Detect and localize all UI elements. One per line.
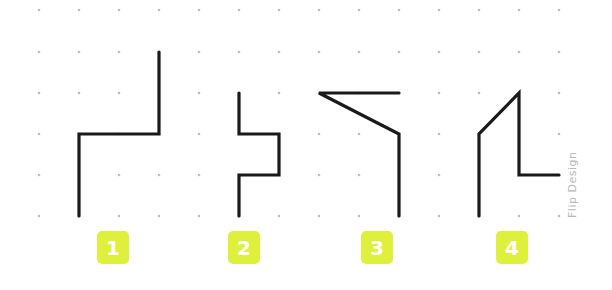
grid-dot xyxy=(558,9,561,12)
grid-dot xyxy=(318,51,321,54)
grid-dot xyxy=(438,92,441,95)
option-badge-4: 4 xyxy=(496,231,528,264)
shape-1 xyxy=(79,52,159,216)
grid-dot xyxy=(198,174,201,177)
grid-dot xyxy=(158,215,161,218)
grid-dot xyxy=(558,133,561,136)
grid-dot xyxy=(38,92,41,95)
grid-dot xyxy=(518,215,521,218)
grid-dot xyxy=(358,9,361,12)
grid-dot xyxy=(38,51,41,54)
option-badge-3: 3 xyxy=(361,231,393,264)
grid-dot xyxy=(318,133,321,136)
shape-3 xyxy=(319,93,399,216)
option-badge-1: 1 xyxy=(97,231,129,264)
grid-dot xyxy=(118,9,121,12)
grid-dot xyxy=(238,51,241,54)
grid-dot xyxy=(438,215,441,218)
grid-dot xyxy=(358,215,361,218)
grid-dot xyxy=(278,9,281,12)
grid-dot xyxy=(478,51,481,54)
grid-dot xyxy=(78,92,81,95)
grid-dot xyxy=(38,215,41,218)
grid-dot xyxy=(38,133,41,136)
grid-dot xyxy=(558,92,561,95)
grid-dot xyxy=(558,51,561,54)
grid-dot xyxy=(438,133,441,136)
grid-dot xyxy=(558,215,561,218)
grid-dot xyxy=(358,51,361,54)
option-badge-2: 2 xyxy=(228,231,260,264)
grid-dot xyxy=(118,92,121,95)
grid-dot xyxy=(438,51,441,54)
grid-dot xyxy=(198,51,201,54)
grid-dot xyxy=(358,174,361,177)
grid-dot xyxy=(158,174,161,177)
grid-dot xyxy=(318,9,321,12)
grid-dot xyxy=(318,174,321,177)
grid-dot xyxy=(78,51,81,54)
grid-dot xyxy=(238,9,241,12)
grid-dot xyxy=(118,51,121,54)
grid-dot xyxy=(478,92,481,95)
grid-dot xyxy=(398,9,401,12)
grid-dot xyxy=(198,92,201,95)
grid-dot xyxy=(478,9,481,12)
grid-dot xyxy=(38,174,41,177)
grid-dots xyxy=(38,9,561,218)
grid-dot xyxy=(438,174,441,177)
shape-2 xyxy=(239,93,279,216)
grid-dot xyxy=(78,9,81,12)
grid-dot xyxy=(318,215,321,218)
grid-dot xyxy=(198,133,201,136)
grid-dot xyxy=(358,133,361,136)
credit-label: Flip Design xyxy=(566,152,579,218)
grid-dot xyxy=(118,215,121,218)
grid-dot xyxy=(278,92,281,95)
grid-dot xyxy=(518,51,521,54)
grid-dot xyxy=(398,51,401,54)
grid-dot xyxy=(158,9,161,12)
grid-dot xyxy=(278,51,281,54)
grid-dot xyxy=(438,9,441,12)
grid-dot xyxy=(118,174,121,177)
grid-dot xyxy=(278,215,281,218)
grid-dot xyxy=(198,9,201,12)
grid-dot xyxy=(38,9,41,12)
shape-4 xyxy=(479,93,559,216)
grid-dot xyxy=(518,9,521,12)
grid-dot xyxy=(198,215,201,218)
